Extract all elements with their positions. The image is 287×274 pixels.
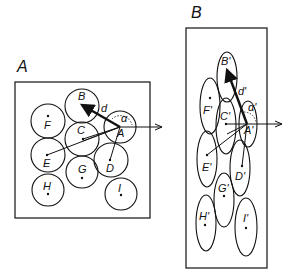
cell-label-c-prime: C': [220, 110, 231, 122]
angle-label-prime: α': [248, 101, 257, 113]
cell-h-prime: [196, 195, 216, 251]
cell-label-b: B: [78, 90, 85, 102]
cell-label-d: D: [106, 162, 114, 174]
cell-label-f-prime: F': [203, 104, 213, 116]
diagram: A d α B F A C: [0, 0, 287, 274]
cell-label-b-prime: B': [221, 55, 231, 67]
cell-label-a-prime: A': [243, 124, 254, 136]
cell-label-f: F: [44, 119, 52, 131]
cell-e-prime: [197, 131, 217, 187]
panel-a-frame: [15, 82, 150, 218]
panel-a: A d α B F A C: [15, 58, 162, 218]
cell-label-e: E: [43, 157, 51, 169]
distance-label-prime: d': [238, 85, 247, 97]
panel-a-title: A: [16, 58, 28, 75]
cell-label-a: A: [116, 127, 124, 139]
cell-label-h-prime: H': [199, 210, 210, 222]
cell-label-i: I: [118, 182, 121, 194]
cell-label-h: H: [43, 180, 51, 192]
cell-label-i-prime: I': [243, 212, 249, 224]
cell-label-e-prime: E': [202, 161, 212, 173]
cell-label-g: G: [78, 163, 87, 175]
panel-b: B d' α' B' F' A' C': [186, 4, 282, 268]
cell-label-g-prime: G': [218, 182, 230, 194]
cell-label-c: C: [77, 124, 85, 136]
distance-label: d: [101, 102, 108, 114]
cell-label-d-prime: D': [235, 170, 246, 182]
angle-label: α: [121, 112, 128, 124]
panel-b-title: B: [191, 4, 202, 21]
